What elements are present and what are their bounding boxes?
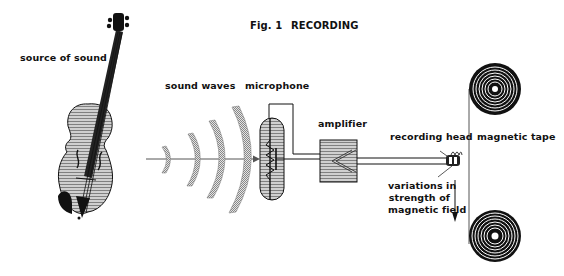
- label-variations-line-2: strength of: [388, 192, 450, 204]
- sound-waves: [146, 106, 260, 213]
- label-variations-line-3: magnetic field: [388, 204, 450, 216]
- label-source-of-sound: source of sound: [20, 52, 107, 64]
- figure-title: RECORDING: [291, 20, 359, 32]
- microphone-icon: [260, 104, 320, 200]
- violin-icon: [58, 13, 129, 220]
- label-recording-head: recording head: [390, 131, 473, 143]
- label-magnetic-tape: magnetic tape: [477, 131, 556, 143]
- label-amplifier: amplifier: [318, 118, 367, 130]
- magnetic-tape: [469, 63, 521, 262]
- label-variations: variations in strength of magnetic field: [388, 180, 450, 216]
- label-sound-waves: sound waves: [165, 80, 235, 92]
- label-microphone: microphone: [245, 80, 309, 92]
- amplifier-icon: [320, 140, 448, 182]
- figure-number: Fig. 1: [250, 20, 282, 32]
- bottom-tape-reel-icon: [469, 210, 521, 262]
- label-variations-line-1: variations in: [388, 180, 450, 192]
- top-tape-reel-icon: [469, 63, 521, 115]
